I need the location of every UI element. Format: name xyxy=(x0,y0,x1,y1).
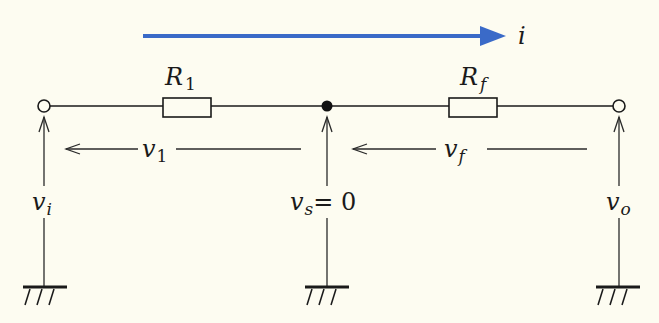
vf-arrow xyxy=(353,144,587,154)
vs-label: vs= 0 xyxy=(290,188,356,219)
v1-arrow xyxy=(66,144,301,154)
current-arrow xyxy=(143,26,506,46)
rf-label: Rf xyxy=(459,63,489,94)
ground-icon xyxy=(23,287,67,305)
r1-label: R1 xyxy=(164,63,196,94)
resistor-rf xyxy=(449,98,497,117)
circuit-diagram: i R1 Rf xyxy=(0,0,659,323)
vi-label: vi xyxy=(32,188,52,219)
ground-icon xyxy=(305,287,349,305)
input-terminal xyxy=(38,100,50,112)
summing-node xyxy=(322,101,333,112)
current-label: i xyxy=(518,22,526,50)
ground-icon xyxy=(596,287,640,305)
v1-label: v1 xyxy=(142,135,167,166)
vf-label: vf xyxy=(444,135,468,166)
resistor-r1 xyxy=(163,98,211,117)
vo-label: vo xyxy=(606,188,631,219)
output-terminal xyxy=(613,100,625,112)
